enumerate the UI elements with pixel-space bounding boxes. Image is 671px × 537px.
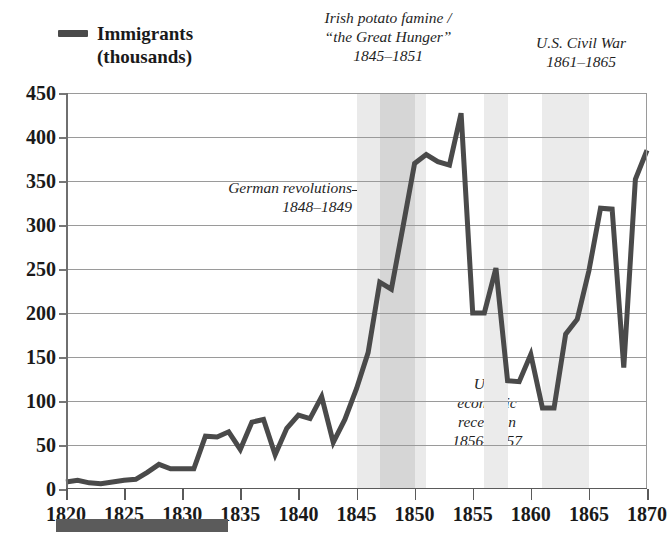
x-tick-mark-1825 [124,489,126,500]
y-tick-label-50: 50 [0,434,56,457]
chart-figure: Immigrants (thousands) Irish potato fami… [0,0,671,537]
footer-bar [56,519,228,532]
y-tick-mark-400 [59,137,66,139]
x-tick-mark-1860 [531,489,533,500]
x-tick-label-1870: 1870 [627,503,667,526]
annotation-irish-famine-line2: “the Great Hunger” [288,27,488,46]
annotation-us-civil-war-line1: U.S. Civil War [496,33,666,52]
x-tick-mark-1850 [415,489,417,500]
legend-label-line2: (thousands) [97,45,193,68]
legend-label-line1: Immigrants [97,22,193,45]
plot-area [66,93,647,489]
immigrants-line-path [66,113,647,483]
annotation-irish-famine-line1: Irish potato famine / [288,8,488,27]
x-tick-label-1855: 1855 [453,503,493,526]
x-tick-label-1860: 1860 [511,503,551,526]
x-tick-mark-1835 [240,489,242,500]
x-tick-mark-1840 [298,489,300,500]
annotation-irish-famine-line3: 1845–1851 [288,46,488,65]
y-tick-label-250: 250 [0,258,56,281]
y-tick-mark-50 [59,445,66,447]
y-tick-label-450: 450 [0,82,56,105]
x-tick-mark-1830 [182,489,184,500]
y-axis-line [66,93,68,489]
immigrants-line-series [66,93,647,489]
x-tick-label-1865: 1865 [569,503,609,526]
y-tick-mark-350 [59,181,66,183]
chart-legend: Immigrants (thousands) [58,22,193,68]
annotation-irish-famine: Irish potato famine / “the Great Hunger”… [288,8,488,65]
y-tick-label-400: 400 [0,126,56,149]
legend-line-swatch [58,30,88,37]
y-tick-label-100: 100 [0,390,56,413]
y-tick-label-150: 150 [0,346,56,369]
y-tick-mark-450 [59,93,66,95]
y-tick-label-0: 0 [0,478,56,501]
annotation-us-civil-war-line2: 1861–1865 [496,52,666,71]
y-tick-label-300: 300 [0,214,56,237]
y-tick-mark-0 [59,489,66,491]
x-tick-label-1840: 1840 [278,503,318,526]
x-tick-label-1845: 1845 [337,503,377,526]
y-tick-mark-100 [59,401,66,403]
y-tick-mark-300 [59,225,66,227]
y-tick-label-350: 350 [0,170,56,193]
y-tick-mark-200 [59,313,66,315]
annotation-us-civil-war: U.S. Civil War 1861–1865 [496,33,666,71]
x-tick-label-1850: 1850 [395,503,435,526]
legend-label: Immigrants (thousands) [97,22,193,68]
y-tick-mark-150 [59,357,66,359]
y-tick-label-200: 200 [0,302,56,325]
x-tick-mark-1865 [589,489,591,500]
x-tick-mark-1870 [647,489,649,500]
y-tick-mark-250 [59,269,66,271]
x-tick-mark-1855 [473,489,475,500]
x-tick-mark-1820 [66,489,68,500]
x-tick-mark-1845 [357,489,359,500]
plot-right-border [646,93,648,489]
